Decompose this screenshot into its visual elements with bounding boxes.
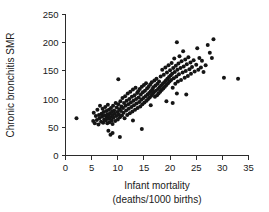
x-tick-label-5: 5 bbox=[89, 162, 94, 173]
y-axis-title: Chronic bronchitis SMR bbox=[5, 32, 16, 137]
data-point bbox=[171, 101, 175, 105]
data-point bbox=[179, 78, 183, 82]
data-point bbox=[194, 63, 198, 67]
plot-canvas: 05010015020025005101520253035Infant mort… bbox=[0, 0, 269, 212]
data-point bbox=[106, 103, 110, 107]
data-point bbox=[111, 131, 115, 135]
data-point bbox=[118, 135, 122, 139]
data-point bbox=[123, 116, 127, 120]
data-point bbox=[181, 49, 185, 53]
y-tick-label-250: 250 bbox=[43, 9, 59, 20]
data-point bbox=[185, 62, 189, 66]
data-point bbox=[222, 76, 226, 80]
data-point bbox=[200, 59, 204, 63]
data-point bbox=[144, 81, 148, 85]
data-point bbox=[131, 119, 135, 123]
data-point bbox=[236, 77, 240, 81]
x-tick-label-20: 20 bbox=[165, 162, 176, 173]
data-point bbox=[186, 55, 190, 59]
data-point bbox=[106, 129, 110, 133]
x-tick-label-25: 25 bbox=[191, 162, 202, 173]
data-point bbox=[164, 99, 168, 103]
scatter-plot-figure: 05010015020025005101520253035Infant mort… bbox=[0, 0, 269, 212]
data-point bbox=[184, 69, 188, 73]
data-point bbox=[190, 65, 194, 69]
data-point bbox=[172, 56, 176, 60]
data-point bbox=[92, 111, 96, 115]
data-point bbox=[189, 72, 193, 76]
data-point bbox=[208, 51, 212, 55]
data-point bbox=[118, 99, 122, 103]
data-point bbox=[177, 72, 181, 76]
data-point bbox=[95, 108, 99, 112]
data-point bbox=[93, 121, 97, 125]
data-point bbox=[116, 77, 120, 81]
data-point bbox=[175, 40, 179, 44]
data-point bbox=[195, 46, 199, 50]
data-point bbox=[149, 103, 153, 107]
data-point bbox=[157, 80, 161, 84]
x-axis-title: Infant mortality bbox=[124, 180, 190, 191]
x-tick-label-15: 15 bbox=[139, 162, 150, 173]
x-tick-label-10: 10 bbox=[112, 162, 123, 173]
y-tick-label-200: 200 bbox=[43, 37, 59, 48]
data-point bbox=[175, 91, 179, 95]
data-point bbox=[180, 59, 184, 63]
data-point bbox=[199, 66, 203, 70]
data-point bbox=[171, 86, 175, 90]
data-point bbox=[184, 93, 188, 97]
data-point bbox=[134, 86, 138, 90]
y-tick-label-0: 0 bbox=[53, 150, 58, 161]
x-tick-label-35: 35 bbox=[243, 162, 254, 173]
y-tick-label-150: 150 bbox=[43, 65, 59, 76]
data-point bbox=[192, 58, 196, 62]
y-tick-label-100: 100 bbox=[43, 94, 59, 105]
data-point-group bbox=[74, 37, 240, 139]
data-point bbox=[140, 127, 144, 131]
y-tick-label-50: 50 bbox=[48, 122, 59, 133]
data-point bbox=[74, 116, 78, 120]
data-point bbox=[193, 69, 197, 73]
data-point bbox=[170, 61, 174, 65]
x-tick-label-0: 0 bbox=[63, 162, 68, 173]
data-point bbox=[202, 70, 206, 74]
data-point bbox=[211, 37, 215, 41]
data-point bbox=[210, 56, 214, 60]
x-tick-label-30: 30 bbox=[217, 162, 228, 173]
data-point bbox=[177, 54, 181, 58]
data-point bbox=[204, 63, 208, 67]
x-axis-title-units: (deaths/1000 births) bbox=[113, 194, 202, 205]
data-point bbox=[206, 43, 210, 47]
